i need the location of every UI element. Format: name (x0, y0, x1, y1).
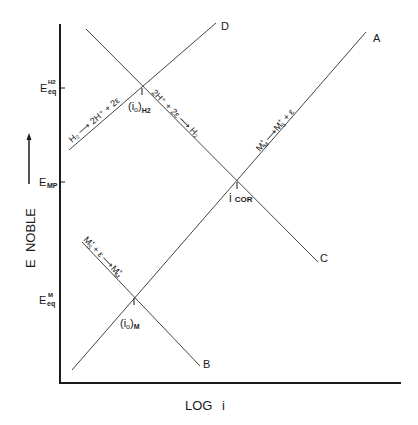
svg-text:E: E (39, 294, 46, 306)
reaction-label-a: M+M⟶M+S+ ε (253, 106, 297, 154)
point-label-io-m: (io)M (120, 317, 140, 330)
y-label-eeq-m: E M eq (39, 292, 55, 308)
svg-text:M+M⟶M+S+ ε: M+M⟶M+S+ ε (253, 106, 297, 154)
svg-text:2H⁺ + 2ε ⟶ H₂: 2H⁺ + 2ε ⟶ H₂ (150, 87, 203, 140)
svg-text:E: E (40, 82, 47, 94)
line-a-anodic-metal (72, 32, 366, 370)
evans-diagram: A B C D E H2 eq E MP E M eq E NOBLE LOG … (0, 0, 418, 425)
svg-text:MP: MP (47, 182, 58, 189)
noble-arrow-head-icon (27, 133, 32, 140)
line-label-d: D (221, 20, 229, 32)
line-label-b: B (203, 358, 210, 370)
y-axis-title: E NOBLE (23, 208, 38, 268)
svg-text:H₂ ⟶ 2H⁺ + 2ε: H₂ ⟶ 2H⁺ + 2ε (67, 95, 122, 144)
line-label-a: A (373, 32, 381, 44)
reaction-label-d: H₂ ⟶ 2H⁺ + 2ε (67, 95, 122, 144)
reaction-label-b: M+S+ ε⟶M+M (81, 234, 125, 280)
svg-text:M: M (48, 292, 53, 298)
svg-text:eq: eq (47, 300, 55, 308)
svg-text:eq: eq (48, 88, 56, 96)
y-label-emp: E MP (39, 176, 58, 189)
point-label-io-h2: (io)H2 (128, 100, 151, 114)
svg-text:M+S+ ε⟶M+M: M+S+ ε⟶M+M (81, 234, 125, 280)
svg-text:(io)H2: (io)H2 (128, 100, 151, 114)
svg-text:H2: H2 (48, 79, 56, 85)
line-c-cathodic-hydrogen (86, 29, 318, 262)
reaction-label-c: 2H⁺ + 2ε ⟶ H₂ (150, 87, 203, 140)
line-b-cathodic-metal (82, 242, 200, 366)
line-label-c: C (320, 252, 328, 264)
svg-text:(io)M: (io)M (120, 317, 140, 330)
y-label-eeq-h2: E H2 eq (40, 79, 56, 96)
x-axis-title: LOG i (185, 398, 225, 413)
svg-text:E: E (39, 176, 46, 188)
